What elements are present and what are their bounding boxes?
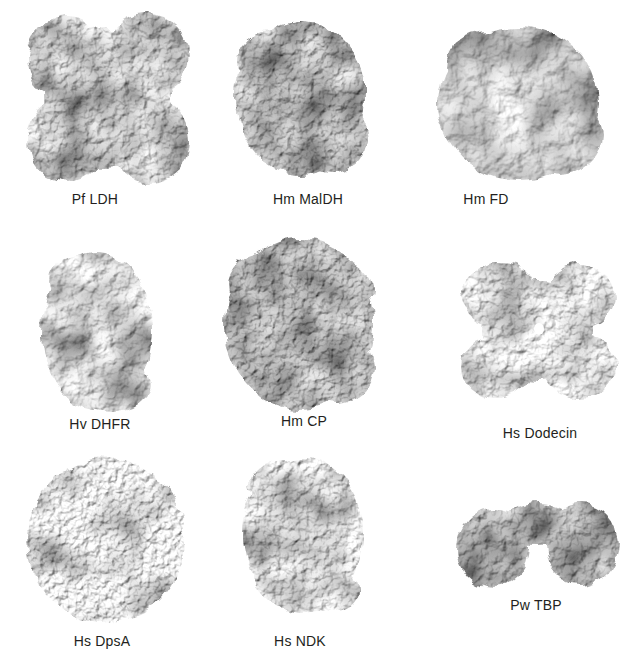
pf-ldh-surface-image [22, 8, 192, 190]
protein-structure-figure: Pf LDH Hm MalDH Hm FD [0, 0, 631, 656]
protein-label-hm-cp: Hm CP [219, 413, 389, 429]
protein-label-pf-ldh: Pf LDH [10, 191, 180, 207]
protein-label-hs-dpsa: Hs DpsA [17, 633, 187, 649]
pw-tbp-surface-image [455, 494, 621, 592]
hm-cp-surface-image [217, 232, 381, 416]
panel-hm-fd: Hm FD [430, 20, 606, 186]
hm-fd-surface-image [430, 20, 606, 186]
panel-hm-cp: Hm CP [217, 232, 381, 416]
panel-pw-tbp: Pw TBP [455, 494, 621, 592]
hv-dhfr-surface-image [33, 246, 161, 416]
panel-hs-ndk: Hs NDK [237, 452, 369, 618]
panel-hm-maldh: Hm MalDH [228, 16, 374, 180]
hs-dpsa-surface-image [23, 454, 189, 626]
protein-label-hs-ndk: Hs NDK [215, 633, 385, 649]
protein-label-pw-tbp: Pw TBP [451, 597, 621, 613]
dodecin-central-pore [534, 323, 544, 335]
hs-ndk-surface-image [237, 452, 369, 618]
protein-label-hv-dhfr: Hv DHFR [15, 416, 185, 432]
panel-hv-dhfr: Hv DHFR [33, 246, 161, 416]
panel-hs-dodecin: Hs Dodecin [453, 252, 623, 410]
protein-label-hm-fd: Hm FD [401, 191, 571, 207]
panel-hs-dpsa: Hs DpsA [23, 454, 189, 626]
protein-label-hs-dodecin: Hs Dodecin [455, 425, 625, 441]
protein-label-hm-maldh: Hm MalDH [223, 191, 393, 207]
hm-maldh-surface-image [228, 16, 374, 180]
hs-dodecin-surface-image [453, 252, 623, 410]
panel-pf-ldh: Pf LDH [22, 8, 192, 190]
